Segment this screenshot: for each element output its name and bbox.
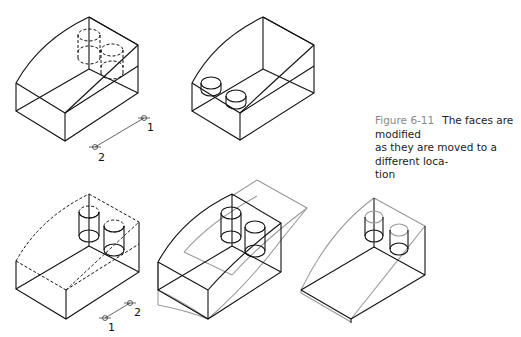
cylinder-2 — [104, 220, 124, 256]
point-label-2: 2 — [98, 151, 105, 164]
figure-c-wedge — [16, 194, 139, 321]
displacement-vector-c — [99, 301, 136, 321]
figure-a-wedge — [16, 17, 150, 150]
caption-line-2: as they are moved to a different loca- — [375, 141, 497, 167]
figure-number: Figure 6-11 — [375, 114, 434, 126]
figure-b-wedge — [192, 17, 314, 140]
figure-caption: Figure 6-11The faces are modified as the… — [375, 114, 521, 182]
cylinder-hole-1 — [201, 77, 221, 96]
point-label-1: 1 — [147, 121, 154, 134]
figure-e-wedge — [301, 198, 425, 323]
displacement-vector-a — [89, 116, 150, 150]
point-label-1: 1 — [108, 321, 115, 334]
figure-d-wedge — [158, 180, 307, 319]
point-label-2: 2 — [134, 306, 141, 319]
caption-line-3: tion — [375, 168, 395, 180]
